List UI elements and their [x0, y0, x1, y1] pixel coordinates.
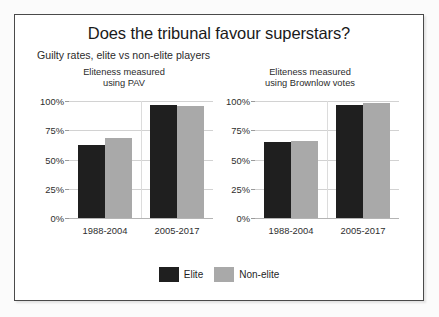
panel-pav: Eliteness measured using PAV 0%25%50%75%…	[25, 67, 217, 257]
x-axis-category-label: 2005-2017	[341, 225, 386, 236]
category-divider	[141, 101, 142, 218]
chart-legend: Elite Non-elite	[15, 267, 423, 282]
bar-elite-1988-2004	[264, 142, 291, 218]
x-axis-category-label: 1988-2004	[269, 225, 314, 236]
panel-pav-title: Eliteness measured using PAV	[31, 67, 217, 89]
y-axis-tick-label: 75%	[231, 125, 250, 136]
gridline-0%	[69, 218, 213, 219]
bar-non-elite-1988-2004	[291, 141, 318, 218]
legend-swatch-nonelite-icon	[214, 267, 234, 282]
legend-label-elite: Elite	[184, 269, 203, 280]
y-tick-mark	[251, 218, 255, 219]
panel-brownlow-title: Eliteness measured using Brownlow votes	[217, 67, 403, 89]
bar-non-elite-2005-2017	[363, 103, 390, 218]
y-tick-mark	[251, 101, 255, 102]
category-divider	[327, 101, 328, 218]
y-tick-mark	[251, 130, 255, 131]
y-axis-tick-label: 0%	[50, 213, 64, 224]
bar-non-elite-2005-2017	[177, 106, 204, 218]
x-axis-category-label: 1988-2004	[83, 225, 128, 236]
y-tick-mark	[65, 218, 69, 219]
plot-area-pav: 0%25%50%75%100%1988-20042005-2017	[69, 101, 213, 218]
bar-elite-1988-2004	[78, 145, 105, 218]
figure-card: Does the tribunal favour superstars? Gui…	[14, 14, 424, 301]
panel-brownlow-title-line2: using Brownlow votes	[265, 78, 355, 88]
legend-item-elite: Elite	[159, 267, 203, 282]
y-tick-mark	[65, 189, 69, 190]
y-axis-tick-label: 50%	[45, 154, 64, 165]
bar-non-elite-1988-2004	[105, 138, 132, 218]
panel-brownlow-title-line1: Eliteness measured	[269, 67, 351, 77]
panel-pav-title-line2: using PAV	[103, 78, 145, 88]
y-tick-mark	[251, 160, 255, 161]
legend-swatch-elite-icon	[159, 267, 179, 282]
y-axis-tick-label: 50%	[231, 154, 250, 165]
y-axis-tick-label: 100%	[40, 96, 64, 107]
plot-area-brownlow: 0%25%50%75%100%1988-20042005-2017	[255, 101, 399, 218]
legend-label-nonelite: Non-elite	[239, 269, 279, 280]
chart-title: Does the tribunal favour superstars?	[15, 24, 423, 43]
x-axis-category-label: 2005-2017	[155, 225, 200, 236]
panel-brownlow: Eliteness measured using Brownlow votes …	[211, 67, 403, 257]
y-tick-mark	[65, 160, 69, 161]
panel-pav-title-line1: Eliteness measured	[83, 67, 165, 77]
y-axis-tick-label: 0%	[236, 213, 250, 224]
y-axis-tick-label: 25%	[231, 183, 250, 194]
y-tick-mark	[65, 101, 69, 102]
bar-elite-2005-2017	[336, 105, 363, 218]
gridline-0%	[255, 218, 399, 219]
legend-item-nonelite: Non-elite	[214, 267, 279, 282]
y-tick-mark	[251, 189, 255, 190]
y-axis-tick-label: 100%	[226, 96, 250, 107]
y-tick-mark	[65, 130, 69, 131]
y-axis-tick-label: 25%	[45, 183, 64, 194]
chart-subtitle: Guilty rates, elite vs non-elite players	[37, 49, 210, 61]
bar-elite-2005-2017	[150, 105, 177, 218]
y-axis-tick-label: 75%	[45, 125, 64, 136]
